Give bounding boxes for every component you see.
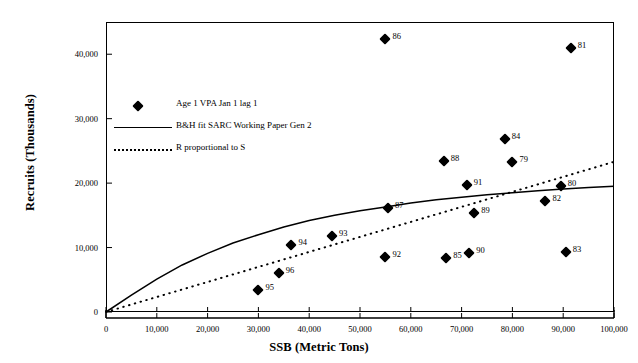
legend-key-solid-line [112,117,172,139]
data-point-label: 79 [519,154,528,164]
dotted-line-icon [114,149,172,151]
data-point-label: 82 [552,193,561,203]
data-point-label: 83 [573,244,582,254]
plot-area [106,22,614,312]
solid-line-icon [114,127,172,128]
data-point-label: 87 [395,200,404,210]
diamond-marker-icon [132,100,143,111]
data-point-label: 96 [286,265,295,275]
data-point-label: 91 [474,177,483,187]
data-point-label: 84 [512,131,521,141]
data-point-label: 88 [451,153,460,163]
x-tick-label: 30,000 [247,324,270,334]
chart-legend: Age 1 VPA Jan 1 lag 1 B&H fit SARC Worki… [112,95,342,161]
x-tick-label: 20,000 [196,324,219,334]
data-point-label: 90 [476,245,485,255]
x-tick-label: 80,000 [501,324,524,334]
data-point-label: 85 [453,250,462,260]
x-tick-label: 50,000 [348,324,371,334]
legend-item-scatter: Age 1 VPA Jan 1 lag 1 [112,95,342,117]
x-tick-label: 70,000 [450,324,473,334]
legend-key-dotted-line [112,139,172,161]
legend-label-proportional: R proportional to S [176,142,245,152]
y-tick-label: 20,000 [48,178,98,188]
y-tick-label: 40,000 [48,49,98,59]
x-tick-label: 100,000 [600,324,628,334]
y-axis-title: Recruits (Thousands) [23,53,38,253]
legend-key-diamond [112,95,172,117]
legend-label-scatter: Age 1 VPA Jan 1 lag 1 [176,98,258,108]
data-point-label: 94 [298,237,307,247]
legend-item-proportional: R proportional to S [112,139,342,161]
legend-item-fit-curve: B&H fit SARC Working Paper Gen 2 [112,117,342,139]
data-point-label: 81 [578,40,587,50]
x-axis-title: SSB (Metric Tons) [0,340,638,355]
chart-figure: Recruits (Thousands) SSB (Metric Tons) 0… [0,0,638,363]
x-tick-label: 90,000 [552,324,575,334]
x-tick-label: 60,000 [399,324,422,334]
y-tick-label: 30,000 [48,114,98,124]
x-tick-label: 0 [104,324,108,334]
x-tick-label: 40,000 [298,324,321,334]
data-point-label: 95 [265,282,274,292]
data-point-label: 89 [481,205,490,215]
legend-label-fit-curve: B&H fit SARC Working Paper Gen 2 [176,120,312,130]
x-tick-label: 10,000 [145,324,168,334]
data-point-label: 92 [392,249,401,259]
data-point-label: 93 [339,228,348,238]
data-point-label: 86 [392,31,401,41]
y-tick-label: 0 [48,307,98,317]
y-tick-label: 10,000 [48,243,98,253]
data-point-label: 80 [568,178,577,188]
